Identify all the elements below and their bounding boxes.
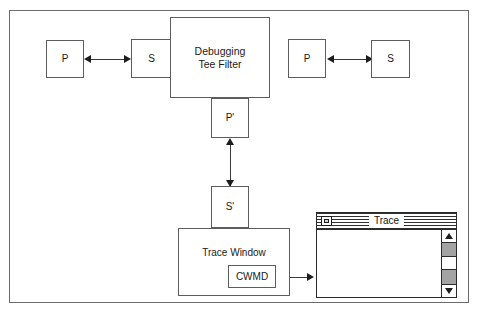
node-client-stub-label: S [148, 53, 155, 65]
node-tee-filter-label-line1: Debugging [195, 45, 246, 58]
close-box-icon[interactable] [321, 216, 332, 226]
node-trace-stub[interactable]: S' [211, 186, 249, 228]
node-debugging-tee-filter[interactable]: Debugging Tee Filter [170, 17, 270, 98]
scrollbar-track-lower[interactable] [442, 270, 456, 284]
node-trace-stub-label: S' [226, 201, 235, 213]
scroll-up-triangle-icon [445, 233, 453, 239]
scrollbar-track-upper[interactable] [442, 243, 456, 256]
arrowhead-right-s [124, 55, 131, 63]
node-cwmd-label: CWMD [236, 271, 268, 283]
arrowhead-left-p [84, 55, 91, 63]
trace-window-titlebar[interactable]: Trace [317, 213, 456, 230]
node-trace-proxy-label: P' [226, 112, 235, 124]
node-server-proxy[interactable]: P [288, 39, 326, 78]
node-tee-filter-label-line2: Tee Filter [198, 58, 241, 71]
node-trace-window-label: Trace Window [202, 247, 266, 259]
scroll-down-arrow-icon[interactable] [442, 284, 456, 297]
node-trace-proxy[interactable]: P' [211, 98, 249, 138]
node-server-stub-label: S [387, 53, 394, 65]
node-client-stub[interactable]: S [131, 39, 172, 78]
arrowhead-up-pprime [226, 138, 234, 145]
connector-line-p-s-right [329, 59, 369, 60]
scrollbar-track[interactable] [442, 243, 456, 284]
trace-window-vertical-scrollbar[interactable] [441, 230, 456, 297]
node-server-stub[interactable]: S [371, 40, 410, 78]
arrowhead-right-trace [307, 273, 314, 281]
node-client-proxy[interactable]: P [46, 40, 84, 78]
connector-line-p-s-left [86, 59, 128, 60]
scroll-up-arrow-icon[interactable] [442, 230, 456, 243]
arrowhead-left-p-right [327, 55, 334, 63]
trace-window-title: Trace [369, 215, 404, 227]
node-cwmd[interactable]: CWMD [228, 265, 276, 288]
node-server-proxy-label: P [304, 53, 311, 65]
trace-window-content-area[interactable] [317, 230, 441, 297]
scroll-down-triangle-icon [445, 288, 453, 294]
trace-window-body [317, 230, 456, 297]
scrollbar-thumb[interactable] [442, 256, 456, 270]
node-client-proxy-label: P [62, 53, 69, 65]
trace-window-panel[interactable]: Trace [316, 212, 457, 298]
diagram-canvas: P S Debugging Tee Filter P S P' S' Trace… [0, 0, 485, 314]
